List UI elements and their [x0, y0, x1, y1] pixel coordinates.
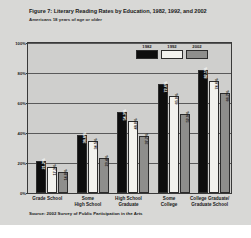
bar-1992[interactable]: 17.3% [47, 167, 57, 193]
bar-value-label: 37.7% [144, 134, 149, 145]
bar-group: 82.1%74.6%66.7% [190, 43, 231, 193]
x-axis-label: High SchoolGraduate [108, 196, 149, 208]
bar-group: 54.3%48.0%37.7% [109, 43, 150, 193]
bar-2002[interactable]: 23.4% [99, 158, 109, 193]
bar-group: 38.8%34.5%23.4% [69, 43, 110, 193]
bar-1982[interactable]: 38.8% [77, 135, 87, 193]
bar-1992[interactable]: 48.0% [128, 121, 138, 193]
bar-1982[interactable]: 72.6% [158, 84, 168, 193]
bar-2002[interactable]: 37.7% [139, 136, 149, 193]
y-axis-tick-label: 60% [18, 101, 26, 106]
source-note: Source: 2002 Survey of Public Participat… [29, 211, 143, 216]
bar-1982[interactable]: 82.1% [198, 70, 208, 193]
bar-2002[interactable]: 14.0% [58, 172, 68, 193]
x-axis-label-line: College [149, 202, 190, 208]
x-axis-label-line: Graduate [108, 202, 149, 208]
y-axis-tick-label: 40% [18, 131, 26, 136]
figure-subtitle: Americans 18 years of age or older [29, 17, 234, 23]
bar-value-label: 17.3% [52, 165, 57, 176]
x-axis-label-line: High School [68, 202, 109, 208]
y-axis-tick-label: 20% [18, 161, 26, 166]
bar-series-container: 21.2%17.3%14.0%38.8%34.5%23.4%54.3%48.0%… [28, 43, 231, 193]
y-axis-tick-label: 100% [15, 41, 26, 46]
x-axis-label: SomeCollege [149, 196, 190, 208]
bar-value-label: 14.0% [63, 169, 68, 180]
x-axis-label: Grade School [27, 196, 68, 202]
y-axis-tick-label: 80% [18, 71, 26, 76]
bar-value-label: 72.6% [163, 82, 168, 93]
bar-value-label: 48.0% [133, 118, 138, 129]
bar-value-label: 21.2% [41, 159, 46, 170]
bar-1982[interactable]: 54.3% [117, 112, 127, 193]
bar-2002[interactable]: 66.7% [220, 93, 230, 193]
bar-value-label: 34.5% [93, 139, 98, 150]
bar-value-label: 82.1% [203, 67, 208, 78]
bar-1982[interactable]: 21.2% [36, 161, 46, 193]
bar-value-label: 23.4% [104, 155, 109, 166]
bar-value-label: 52.9% [185, 111, 190, 122]
bar-value-label: 38.8% [82, 132, 87, 143]
bar-2002[interactable]: 52.9% [180, 114, 190, 193]
bar-value-label: 74.6% [214, 79, 219, 90]
x-axis-label-line: Grade School [27, 196, 68, 202]
bar-1992[interactable]: 65.0% [169, 96, 179, 194]
y-axis-tick-mark [26, 193, 28, 194]
x-axis-label: SomeHigh School [68, 196, 109, 208]
bar-1992[interactable]: 34.5% [88, 141, 98, 193]
x-axis-label-line: Graduate School [189, 202, 230, 208]
bar-group: 72.6%65.0%52.9% [150, 43, 191, 193]
x-axis-label: College Graduate/Graduate School [189, 196, 230, 208]
bar-value-label: 54.3% [122, 109, 127, 120]
bar-1992[interactable]: 74.6% [209, 81, 219, 193]
bar-value-label: 66.7% [225, 90, 230, 101]
figure-container: Figure 7: Literary Reading Rates by Educ… [0, 0, 251, 225]
bar-group: 21.2%17.3%14.0% [28, 43, 69, 193]
bar-value-label: 65.0% [174, 93, 179, 104]
figure-title: Figure 7: Literary Reading Rates by Educ… [29, 8, 234, 16]
chart-plot-area: 0%20%40%60%80%100% 198219922002 21.2%17.… [27, 42, 232, 194]
